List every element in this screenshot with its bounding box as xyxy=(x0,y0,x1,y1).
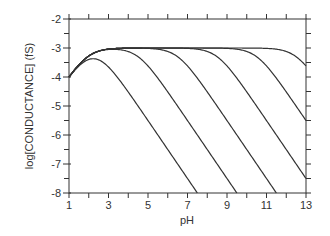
y-tick-label: -8 xyxy=(51,187,61,199)
x-tick-label: 3 xyxy=(105,199,111,211)
x-tick-label: 7 xyxy=(184,199,190,211)
plot-border xyxy=(69,19,306,193)
x-tick-labels: 135791113 xyxy=(66,199,312,211)
x-tick-label: 11 xyxy=(261,199,272,211)
x-tick-label: 1 xyxy=(66,199,72,211)
data-curve-curve-5 xyxy=(69,48,306,121)
y-tick-label: -7 xyxy=(51,158,61,170)
y-tick-label: -5 xyxy=(51,100,61,112)
axis-ticks xyxy=(63,14,311,198)
chart: 135791113 -2-3-4-5-6-7-8 pH log[CONDUCTA… xyxy=(0,0,330,236)
y-tick-label: -2 xyxy=(51,13,61,25)
y-tick-labels: -2-3-4-5-6-7-8 xyxy=(51,13,61,199)
data-curve-curve-1 xyxy=(69,59,197,193)
curves xyxy=(69,48,306,193)
x-axis-title: pH xyxy=(180,214,194,226)
data-curve-curve-2 xyxy=(69,49,237,193)
x-tick-label: 9 xyxy=(224,199,230,211)
plot-frame xyxy=(69,19,306,193)
data-curve-curve-4 xyxy=(69,48,306,178)
x-tick-label: 13 xyxy=(300,199,312,211)
y-tick-label: -6 xyxy=(51,129,61,141)
data-curve-curve-6 xyxy=(69,48,306,77)
y-tick-label: -4 xyxy=(51,71,61,83)
x-tick-label: 5 xyxy=(145,199,151,211)
data-curve-curve-3 xyxy=(69,48,276,193)
y-tick-label: -3 xyxy=(51,42,61,54)
y-axis-title: log[CONDUCTANCE] (fS) xyxy=(23,43,35,169)
